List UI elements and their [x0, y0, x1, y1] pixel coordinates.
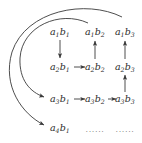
node-a3b3-a: a	[115, 93, 121, 104]
node-a1b1-a: a	[50, 26, 56, 37]
node-a2b2-b-sub: 2	[101, 66, 105, 73]
node-grid: a1b1 a1b2 a1b3 a2b1 a2b2 a2b3 a3b1 a3b2 …	[0, 0, 142, 143]
node-a3b2: a3b2	[85, 94, 105, 104]
node-a2b2: a2b2	[85, 62, 105, 72]
node-a1b1-b-sub: 1	[66, 31, 70, 38]
node-a1b2: a1b2	[85, 27, 105, 37]
node-a2b3: a2b3	[115, 62, 135, 72]
node-a3b2-a: a	[85, 93, 91, 104]
node-a3b2-a-sub: 3	[91, 98, 95, 105]
node-a2b2-a-sub: 2	[91, 66, 95, 73]
node-a1b3-a: a	[115, 26, 121, 37]
node-a4b1-b-sub: 1	[66, 127, 70, 134]
node-a2b3-b-sub: 3	[131, 66, 135, 73]
node-a2b3-a-sub: 2	[121, 66, 125, 73]
node-a2b1-b-sub: 1	[66, 66, 70, 73]
node-a1b3-a-sub: 1	[121, 31, 125, 38]
node-a3b1-b-sub: 1	[66, 98, 70, 105]
node-a1b2-a-sub: 1	[91, 31, 95, 38]
node-a3b1: a3b1	[50, 94, 70, 104]
node-a3b2-b-sub: 2	[101, 98, 105, 105]
node-a3b3: a3b3	[115, 94, 135, 104]
node-a1b2-a: a	[85, 26, 91, 37]
node-a4b1-a: a	[50, 122, 56, 133]
node-a2b1-a-sub: 2	[56, 66, 60, 73]
node-a3b1-a-sub: 3	[56, 98, 60, 105]
node-a2b1: a2b1	[50, 62, 70, 72]
node-a2b1-a: a	[50, 61, 56, 72]
ellipsis-row4-col3: ......	[116, 125, 135, 134]
node-a3b3-a-sub: 3	[121, 98, 125, 105]
node-a3b1-a: a	[50, 93, 56, 104]
node-a4b1-a-sub: 4	[56, 127, 60, 134]
node-a1b1-a-sub: 1	[56, 31, 60, 38]
node-a2b3-a: a	[115, 61, 121, 72]
node-a1b1: a1b1	[50, 27, 70, 37]
enumeration-diagram: a1b1 a1b2 a1b3 a2b1 a2b2 a2b3 a3b1 a3b2 …	[0, 0, 142, 143]
node-a1b3-b-sub: 3	[131, 31, 135, 38]
node-a1b2-b-sub: 2	[101, 31, 105, 38]
node-a3b3-b-sub: 3	[131, 98, 135, 105]
ellipsis-row4-col2: ......	[86, 125, 105, 134]
node-a4b1: a4b1	[50, 123, 70, 133]
node-a1b3: a1b3	[115, 27, 135, 37]
node-a2b2-a: a	[85, 61, 91, 72]
